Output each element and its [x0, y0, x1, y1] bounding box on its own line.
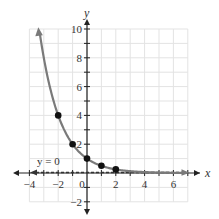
x-axis-arrow-right-icon: [194, 170, 200, 176]
y-axis-label: y: [83, 6, 90, 20]
x-axis-label: x: [204, 166, 211, 180]
data-point: [84, 155, 91, 162]
data-point: [55, 112, 62, 119]
y-axis-arrow-down-icon: [84, 209, 90, 215]
data-point: [69, 141, 76, 148]
x-tick-label: 0: [79, 178, 85, 190]
y-tick-label: 8: [77, 52, 83, 64]
x-tick-label: 4: [142, 178, 148, 190]
asymptote-label: y = 0: [37, 155, 60, 167]
x-tick-label: 2: [113, 178, 119, 190]
data-point: [98, 163, 105, 170]
x-axis-arrow-left-icon: [13, 170, 19, 176]
x-tick-label: 6: [171, 178, 177, 190]
data-point: [113, 166, 120, 173]
asymptote-arrow-icon: [30, 170, 37, 176]
y-tick-label: 4: [77, 109, 83, 121]
x-tick-label: −4: [24, 178, 36, 190]
y-tick-label: 2: [77, 138, 83, 150]
y-tick-label: −2: [70, 196, 82, 208]
exponential-graph: −4−20246108642−2 x y y = 0: [0, 0, 219, 219]
grid: [29, 29, 187, 202]
y-tick-label: 10: [71, 23, 83, 35]
function-curve: [40, 33, 184, 173]
y-tick-label: 6: [77, 81, 83, 93]
x-tick-label: −2: [52, 178, 64, 190]
